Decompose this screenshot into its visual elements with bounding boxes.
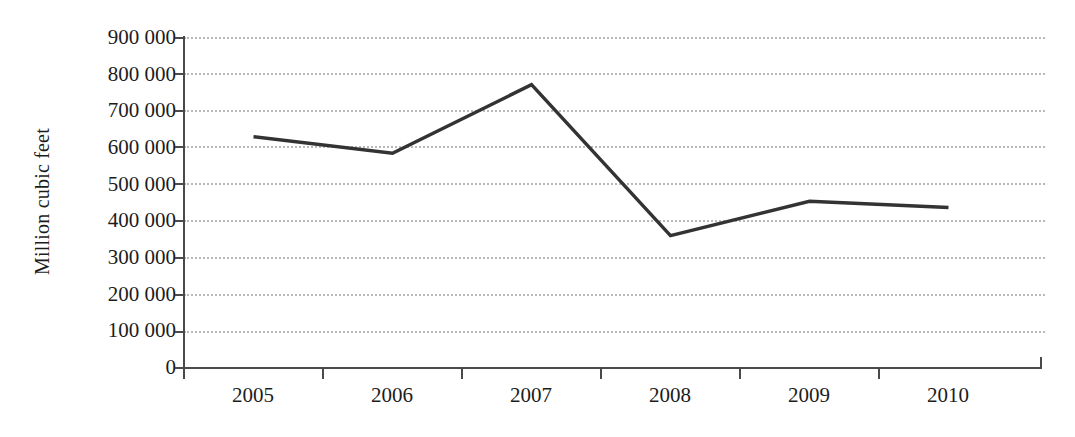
series-layer [0, 0, 1075, 437]
data-line-million-cubic-feet [254, 85, 949, 236]
line-chart: Million cubic feet 900 000 800 000 700 0… [0, 0, 1075, 437]
